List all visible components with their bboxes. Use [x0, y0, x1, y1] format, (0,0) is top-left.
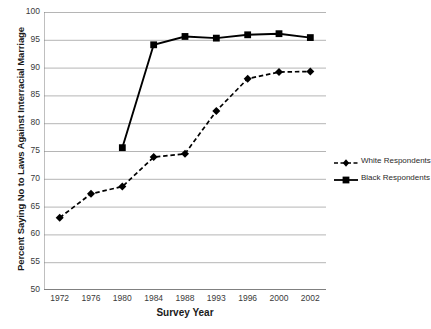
- chart-legend: White Respondents Black Respondents: [334, 152, 424, 186]
- data-point-marker: [306, 67, 314, 75]
- data-point-marker: [119, 144, 126, 151]
- y-axis-tick-label: 80: [14, 118, 40, 127]
- y-axis-tick-label: 60: [14, 229, 40, 238]
- data-point-marker: [307, 34, 314, 41]
- data-point-marker: [212, 107, 220, 115]
- series-layer: [56, 30, 315, 221]
- plot-svg: [44, 12, 326, 290]
- legend-item-black-respondents: Black Respondents: [334, 169, 424, 186]
- series-line-white-respondents: [60, 71, 311, 217]
- data-point-marker: [182, 33, 189, 40]
- legend-swatch-solid-square-icon: [334, 172, 358, 184]
- data-point-marker: [276, 30, 283, 37]
- y-axis-tick-label: 90: [14, 63, 40, 72]
- x-axis-tick-labels: 197219761980198419881993199620002002: [44, 293, 326, 307]
- legend-label-black-respondents: Black Respondents: [358, 173, 430, 182]
- legend-item-white-respondents: White Respondents: [334, 152, 424, 169]
- data-point-marker: [87, 190, 95, 198]
- data-point-marker: [244, 75, 252, 83]
- y-axis-tick-label: 55: [14, 257, 40, 266]
- y-axis-tick-label: 100: [14, 7, 40, 16]
- y-axis-tick-label: 65: [14, 202, 40, 211]
- y-axis-tick-label: 75: [14, 146, 40, 155]
- legend-swatch-dashed-diamond-icon: [334, 155, 358, 167]
- y-axis-tick-label: 85: [14, 90, 40, 99]
- series-line-black-respondents: [122, 34, 310, 148]
- data-point-marker: [275, 68, 283, 76]
- data-point-marker: [213, 35, 220, 42]
- x-axis-title: Survey Year: [44, 307, 326, 318]
- y-axis-tick-labels: 10095908580757065605550: [12, 0, 40, 329]
- x-axis-tick-label: 2002: [290, 293, 330, 303]
- plot-area: [44, 12, 326, 290]
- data-point-marker: [244, 31, 251, 38]
- data-point-marker: [150, 41, 157, 48]
- y-axis-tick-label: 70: [14, 174, 40, 183]
- y-axis-tick-label: 95: [14, 35, 40, 44]
- y-axis-tick-label: 50: [14, 285, 40, 294]
- gridlines: [44, 13, 326, 263]
- legend-label-white-respondents: White Respondents: [358, 156, 431, 165]
